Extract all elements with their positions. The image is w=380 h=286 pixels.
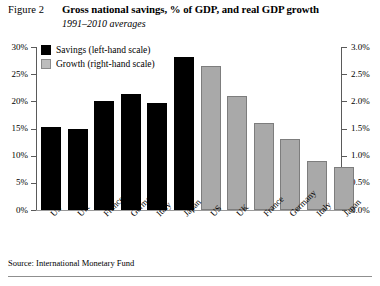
chart-legend: Savings (left-hand scale)Growth (right-h…	[41, 44, 221, 72]
legend-item-growth: Growth (right-hand scale)	[41, 58, 221, 71]
right-axis-tick	[342, 129, 347, 130]
left-axis-tick-label: 20%	[12, 97, 29, 106]
bar-savings-france	[94, 101, 114, 210]
right-axis-tick	[342, 101, 347, 102]
right-axis-tick-label: 2.5%	[351, 70, 370, 79]
figure-label: Figure 2	[8, 4, 44, 15]
left-axis-tick-label: 5%	[16, 178, 28, 187]
source-note: Source: International Monetary Fund	[8, 258, 134, 268]
right-axis-tick-label: 1.5%	[351, 124, 370, 133]
legend-label: Savings (left-hand scale)	[56, 44, 150, 56]
bar-growth-france	[254, 123, 274, 210]
right-axis-tick-label: 1.0%	[351, 151, 370, 160]
legend-swatch-savings	[41, 45, 51, 55]
left-axis-tick-label: 10%	[12, 151, 29, 160]
figure-subtitle: 1991–2010 averages	[62, 18, 146, 29]
bar-growth-uk	[227, 96, 247, 210]
bar-growth-us	[201, 66, 221, 210]
left-axis-tick-label: 30%	[12, 43, 29, 52]
bar-savings-us	[41, 127, 61, 210]
right-axis-tick	[342, 74, 347, 75]
right-axis-tick	[342, 47, 347, 48]
bar-savings-uk	[68, 129, 88, 211]
footer-divider	[8, 276, 372, 277]
left-axis-tick-label: 25%	[12, 70, 29, 79]
legend-swatch-growth	[41, 59, 51, 69]
left-axis-tick-label: 15%	[12, 124, 29, 133]
left-axis-tick-label: 0%	[16, 206, 28, 215]
figure-header: Figure 2 Gross national savings, % of GD…	[0, 0, 380, 36]
right-axis-tick-label: 2.0%	[351, 97, 370, 106]
right-axis-tick	[342, 156, 347, 157]
x-axis-category-labels: USUKFranceGermanyItalyJapanUSUKFranceGer…	[36, 212, 342, 256]
bar-savings-japan	[174, 57, 194, 210]
bar-savings-germany	[121, 94, 141, 210]
figure-title: Gross national savings, % of GDP, and re…	[62, 3, 319, 15]
left-axis-tick	[31, 210, 36, 211]
right-axis-tick-label: 0.5%	[351, 178, 370, 187]
legend-label: Growth (right-hand scale)	[56, 58, 155, 70]
right-axis-tick-label: 3.0%	[351, 43, 370, 52]
legend-item-savings: Savings (left-hand scale)	[41, 44, 221, 57]
